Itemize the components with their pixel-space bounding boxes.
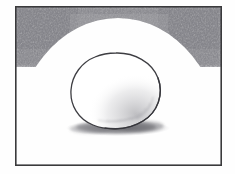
- egg: [71, 53, 160, 129]
- sketch-canvas: [0, 0, 235, 174]
- pencil-sketch-artwork: A hand-drawn pencil sketch showing a sin…: [0, 0, 235, 174]
